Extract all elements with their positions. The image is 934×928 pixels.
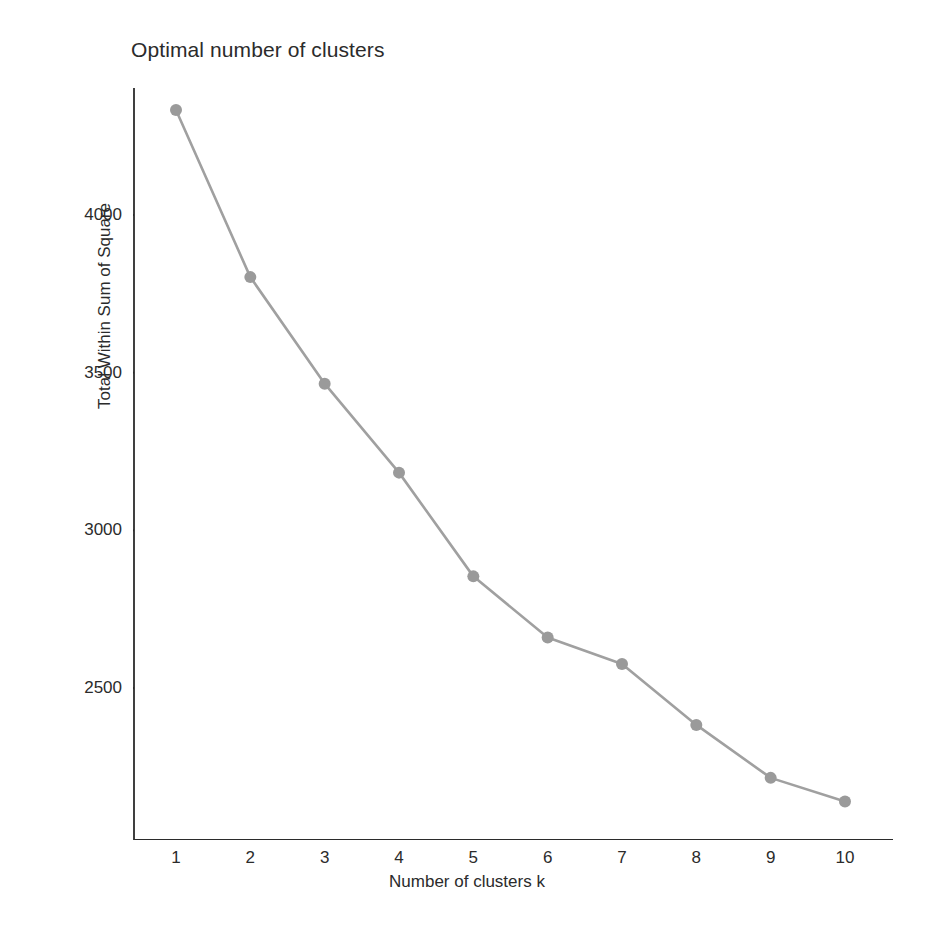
x-tick-label: 5 xyxy=(443,849,503,866)
data-point xyxy=(765,772,777,784)
elbow-plot-figure: Optimal number of clusters Total Within … xyxy=(0,0,934,928)
x-tick-label: 6 xyxy=(518,849,578,866)
x-tick-label: 10 xyxy=(815,849,875,866)
x-tick-label: 7 xyxy=(592,849,652,866)
data-point xyxy=(170,104,182,116)
y-tick-label: 2500 xyxy=(32,679,122,696)
y-tick-label: 4000 xyxy=(32,206,122,223)
x-tick-label: 4 xyxy=(369,849,429,866)
y-tick-label: 3500 xyxy=(32,364,122,381)
x-tick-label: 8 xyxy=(666,849,726,866)
data-point xyxy=(839,796,851,808)
data-line xyxy=(176,110,845,802)
data-point xyxy=(393,467,405,479)
plot-panel xyxy=(133,60,893,840)
x-axis-title: Number of clusters k xyxy=(0,872,934,892)
data-point xyxy=(319,378,331,390)
x-axis-tick-labels: 12345678910 xyxy=(0,849,934,875)
x-tick-label: 3 xyxy=(295,849,355,866)
data-point xyxy=(244,271,256,283)
y-tick-label: 3000 xyxy=(32,521,122,538)
x-tick-label: 2 xyxy=(220,849,280,866)
x-tick-label: 9 xyxy=(741,849,801,866)
data-point xyxy=(542,632,554,644)
axis-tick-marks xyxy=(133,215,845,840)
axis-lines xyxy=(134,88,893,840)
data-point xyxy=(616,658,628,670)
data-point-markers xyxy=(170,104,851,808)
x-tick-label: 1 xyxy=(146,849,206,866)
plot-svg xyxy=(133,60,893,840)
page-title: Optimal number of clusters xyxy=(131,38,385,62)
y-axis-tick-labels: 2500300035004000 xyxy=(0,0,122,928)
data-point xyxy=(690,719,702,731)
data-point xyxy=(467,570,479,582)
